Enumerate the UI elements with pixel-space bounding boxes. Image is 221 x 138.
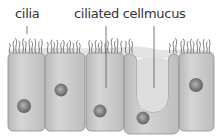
ciliated-cell-label: ciliated cell	[74, 6, 144, 21]
nucleus	[55, 84, 68, 97]
nucleus	[137, 112, 150, 125]
ciliated-cell-5	[179, 53, 214, 131]
mucus-label: mucus	[144, 6, 186, 21]
nucleus	[17, 99, 31, 113]
nucleus	[94, 105, 107, 118]
nucleus	[189, 78, 203, 92]
ciliated-cell-1	[8, 53, 45, 131]
cilia-label: cilia	[15, 6, 39, 21]
ciliated-cell-3	[86, 53, 124, 131]
cilium	[209, 39, 210, 53]
mucus-in-goblet	[137, 57, 168, 112]
